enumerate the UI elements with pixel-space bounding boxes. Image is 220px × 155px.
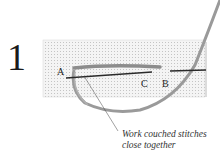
caption-line-1: Work couched stitches [122, 129, 207, 140]
point-c-label: C [141, 79, 148, 89]
point-a-label: A [57, 67, 64, 77]
caption-line-2: close together [122, 140, 207, 151]
caption: Work couched stitches close together [122, 129, 207, 151]
point-b-label: B [162, 79, 169, 89]
canvas-fabric [43, 40, 207, 97]
